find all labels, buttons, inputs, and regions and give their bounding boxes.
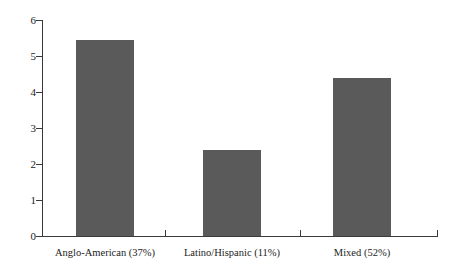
y-tick-label-5: 5 — [8, 51, 36, 62]
y-tick-label-4: 4 — [8, 87, 36, 98]
bar-anglo-american — [76, 40, 134, 236]
bar-chart: 0 1 2 3 4 5 6 Anglo-American (37%) Latin… — [0, 0, 449, 275]
y-axis-line — [42, 20, 43, 237]
y-tick-mark-6 — [36, 20, 42, 21]
bar-mixed — [333, 78, 391, 236]
y-tick-mark-1 — [36, 200, 42, 201]
y-tick-label-1: 1 — [8, 195, 36, 206]
x-tick-mark-2 — [300, 230, 301, 237]
y-tick-label-3: 3 — [8, 123, 36, 134]
x-category-label-mixed: Mixed (52%) — [292, 248, 432, 259]
x-tick-mark-3 — [437, 230, 438, 237]
y-tick-mark-4 — [36, 92, 42, 93]
y-tick-label-2: 2 — [8, 159, 36, 170]
bar-latino-hispanic — [203, 150, 261, 236]
y-tick-mark-3 — [36, 128, 42, 129]
y-tick-label-6: 6 — [8, 15, 36, 26]
y-tick-mark-5 — [36, 56, 42, 57]
x-category-label-anglo-american: Anglo-American (37%) — [35, 248, 175, 259]
y-tick-mark-2 — [36, 164, 42, 165]
y-tick-label-0: 0 — [8, 231, 36, 242]
x-tick-mark-1 — [165, 230, 166, 237]
x-category-label-latino-hispanic: Latino/Hispanic (11%) — [162, 248, 302, 259]
x-axis-line — [42, 236, 438, 237]
